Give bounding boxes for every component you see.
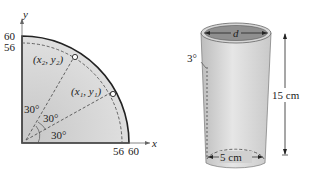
base-diameter-label: 5 cm (220, 151, 242, 163)
point-2-marker (72, 54, 77, 59)
angle-label-3: 30° (51, 129, 66, 141)
point-1-label: (x₁, y₁) (71, 85, 102, 98)
x-axis-label: x (151, 137, 157, 149)
height-label: 15 cm (272, 89, 300, 101)
x-tick-56: 56 (113, 145, 125, 157)
diameter-label: d (233, 27, 239, 39)
point-1-marker (110, 91, 115, 96)
figure-canvas: y x 60 56 56 60 (x₂, y₂) (x₁, y₁) 30° 30… (0, 0, 310, 180)
point-2-label: (x₂, y₂) (33, 53, 64, 66)
quarter-circle-diagram: y x 60 56 56 60 (x₂, y₂) (x₁, y₁) 30° 30… (4, 8, 157, 157)
angle-label-1: 30° (24, 103, 39, 115)
x-tick-60: 60 (128, 145, 140, 157)
angle-3deg-label: 3° (187, 52, 197, 64)
cylinder-diagram: d 3° 5 cm 15 cm (187, 23, 307, 168)
angle-label-2: 30° (43, 112, 58, 124)
y-axis-label: y (22, 8, 28, 20)
y-tick-56: 56 (4, 41, 16, 53)
